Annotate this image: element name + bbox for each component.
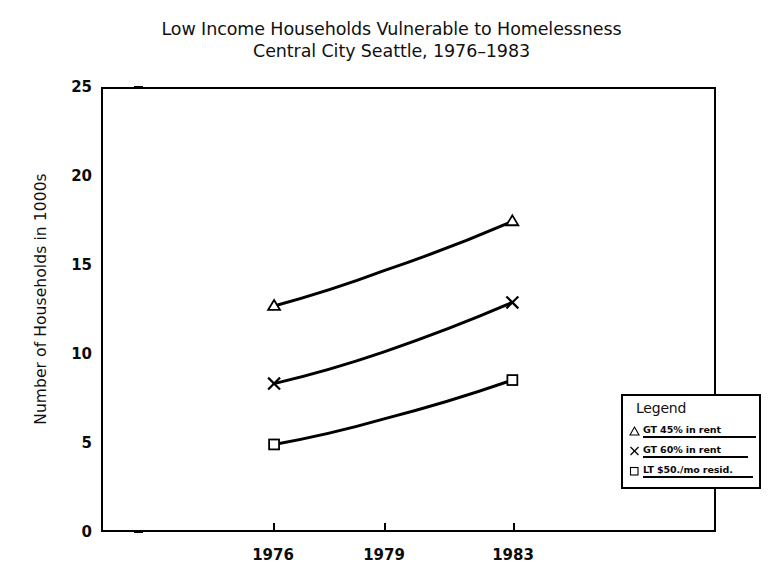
x-marker xyxy=(628,443,641,458)
legend-label-1: GT 45% in rent xyxy=(643,424,721,435)
triangle-marker xyxy=(628,423,641,438)
x-tick-mark-1983 xyxy=(513,523,515,532)
x-tick-mark-1979 xyxy=(384,523,386,532)
square-marker xyxy=(628,463,641,478)
chart-title-line-2: Central City Seattle, 1976–1983 xyxy=(0,40,783,62)
y-tick-label-20: 20 xyxy=(48,167,92,185)
x-tick-mark-1976 xyxy=(273,523,275,532)
legend-label-2: GT 60% in rent xyxy=(643,444,721,455)
legend-line-3 xyxy=(643,476,753,478)
series-line-3 xyxy=(274,380,512,444)
data-point-triangle-1983 xyxy=(506,215,518,225)
x-axis-ticks: 1976 1979 1983 xyxy=(101,532,716,572)
series-line-1 xyxy=(274,221,512,306)
y-tick-label-25: 25 xyxy=(48,78,92,96)
y-tick-label-10: 10 xyxy=(48,345,92,363)
legend-row-3: LT $50./mo resid. xyxy=(628,463,760,480)
y-tick-label-15: 15 xyxy=(48,256,92,274)
chart-page: Low Income Households Vulnerable to Home… xyxy=(0,0,783,578)
chart-title: Low Income Households Vulnerable to Home… xyxy=(0,18,783,63)
y-axis-ticks: 25 20 15 10 5 0 xyxy=(40,87,92,532)
x-tick-label-1979: 1979 xyxy=(339,546,429,564)
legend-label-3: LT $50./mo resid. xyxy=(643,464,733,475)
legend-heading: Legend xyxy=(636,400,686,416)
data-point-square-1983 xyxy=(507,375,517,385)
y-tick-label-5: 5 xyxy=(48,434,92,452)
y-tick-label-0: 0 xyxy=(48,523,92,541)
legend-row-1: GT 45% in rent xyxy=(628,423,760,440)
legend-line-1 xyxy=(643,436,756,438)
x-tick-label-1976: 1976 xyxy=(228,546,318,564)
data-point-x-1983 xyxy=(506,296,518,308)
series-line-2 xyxy=(274,302,512,383)
legend-box: Legend GT 45% in rent GT 60% in rent LT … xyxy=(621,394,761,489)
chart-title-line-1: Low Income Households Vulnerable to Home… xyxy=(0,18,783,40)
legend-row-2: GT 60% in rent xyxy=(628,443,760,460)
data-point-square-1976 xyxy=(269,439,279,449)
legend-line-2 xyxy=(643,456,748,458)
x-tick-label-1983: 1983 xyxy=(468,546,558,564)
